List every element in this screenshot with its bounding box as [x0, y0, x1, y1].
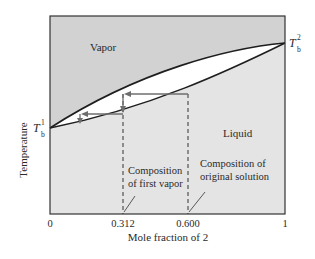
x-tick-0600: 0.600	[176, 218, 200, 229]
x-tick-0312: 0.312	[111, 218, 135, 229]
svg-text:T: T	[33, 121, 41, 135]
original-solution-annotation-line1: Composition of	[200, 158, 266, 169]
svg-text:T: T	[289, 36, 297, 50]
liquid-label: Liquid	[223, 127, 253, 139]
svg-text:2: 2	[297, 33, 301, 42]
svg-text:b: b	[41, 130, 45, 139]
boiling-point-right-label: T 2 b	[289, 33, 301, 54]
first-vapor-annotation-line1: Composition	[128, 165, 183, 176]
x-tick-1: 1	[282, 218, 287, 229]
svg-text:b: b	[297, 45, 301, 54]
svg-text:1: 1	[41, 118, 45, 127]
x-tick-0: 0	[47, 218, 52, 229]
phase-diagram: Vapor Liquid Composition of first vapor …	[0, 0, 315, 259]
y-axis-label: Temperature	[17, 122, 29, 178]
boiling-point-left-label: T 1 b	[33, 118, 45, 139]
x-axis-label: Mole fraction of 2	[128, 231, 208, 243]
original-solution-annotation-line2: original solution	[200, 171, 270, 182]
first-vapor-annotation-line2: of first vapor	[128, 178, 183, 189]
vapor-label: Vapor	[90, 41, 117, 53]
